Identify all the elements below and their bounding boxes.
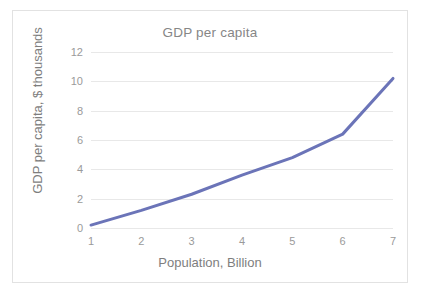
y-axis-tick-label: 10: [71, 75, 83, 87]
y-axis-title: GDP per capita, $ thousands: [30, 23, 45, 198]
gridline: [91, 228, 393, 229]
x-axis-tick-label: 4: [239, 235, 245, 247]
y-axis-tick-label: 4: [77, 163, 83, 175]
y-axis-tick-label: 8: [77, 105, 83, 117]
series-polyline: [91, 78, 393, 225]
plot-area: 024681012 1234567: [91, 52, 393, 228]
x-axis-tick-label: 2: [138, 235, 144, 247]
line-series: [91, 52, 393, 228]
x-axis-tick-label: 1: [88, 235, 94, 247]
x-axis-tick-label: 7: [390, 235, 396, 247]
chart-container: GDP per capita GDP per capita, $ thousan…: [12, 10, 408, 283]
y-axis-tick-label: 12: [71, 46, 83, 58]
chart-title: GDP per capita: [13, 25, 407, 40]
y-axis-tick-label: 6: [77, 134, 83, 146]
x-axis-tick-label: 5: [289, 235, 295, 247]
x-axis-tick-label: 6: [340, 235, 346, 247]
y-axis-tick-label: 2: [77, 193, 83, 205]
x-axis-tick-label: 3: [189, 235, 195, 247]
y-axis-tick-label: 0: [77, 222, 83, 234]
x-axis-title: Population, Billion: [13, 255, 407, 270]
